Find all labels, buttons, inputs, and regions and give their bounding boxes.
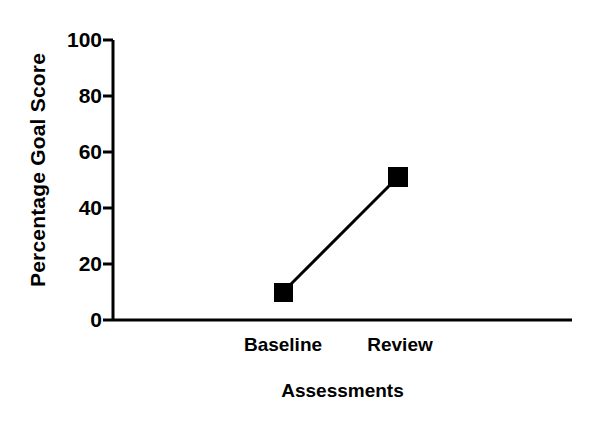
x-axis-title: Assessments xyxy=(113,378,572,404)
chart-figure: Percentage Goal Score 100 80 60 40 20 0 … xyxy=(0,0,596,428)
x-tick-label-review: Review xyxy=(367,332,432,358)
data-point-review xyxy=(388,167,408,187)
data-point-baseline xyxy=(274,283,293,302)
plot-area xyxy=(0,0,596,428)
data-line-series-1 xyxy=(283,177,398,292)
x-tick-label-baseline: Baseline xyxy=(244,332,322,358)
